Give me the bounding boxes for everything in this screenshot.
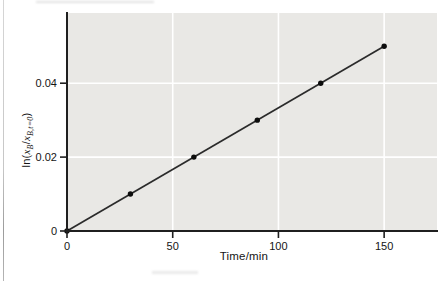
ylabel-close: )	[20, 113, 32, 117]
data-point	[381, 44, 386, 49]
ylabel-sub1: B	[26, 144, 35, 149]
data-point	[128, 191, 133, 196]
ylabel-fn: ln(	[20, 155, 32, 168]
chart-canvas: 05010015000.020.04	[0, 0, 445, 281]
x-tick-label: 100	[269, 240, 287, 252]
x-axis-label: Time/min	[220, 250, 268, 262]
data-point	[191, 154, 196, 159]
x-tick-label: 50	[167, 240, 179, 252]
y-tick-label: 0.02	[36, 151, 57, 163]
ylabel-x2: x	[20, 136, 32, 141]
ylabel-sub2: B,t=0	[26, 116, 35, 136]
y-tick-label: 0.04	[36, 77, 57, 89]
y-axis-label: ln(xB/xB,t=0)	[20, 113, 32, 168]
data-point	[318, 81, 323, 86]
data-point	[255, 117, 260, 122]
x-tick-label: 150	[375, 240, 393, 252]
ylabel-x1: x	[20, 149, 32, 154]
ylabel-slash: /	[20, 141, 32, 144]
y-tick-label: 0	[51, 225, 57, 237]
x-tick-label: 0	[64, 240, 70, 252]
figure-page: 05010015000.020.04 Time/min ln(xB/xB,t=0…	[0, 0, 445, 281]
